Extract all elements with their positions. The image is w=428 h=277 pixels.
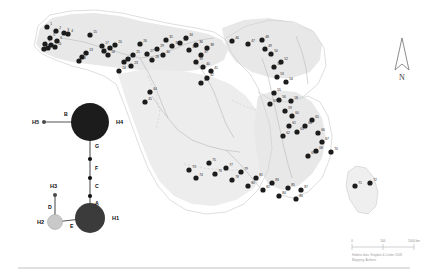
locality-number: 50 <box>274 49 278 53</box>
locality-marker <box>107 45 112 50</box>
locality-number: 60 <box>295 111 299 115</box>
locality-marker <box>309 117 314 122</box>
locality-marker <box>101 48 106 53</box>
locality-number: 39 <box>199 57 203 61</box>
locality-number: 38 <box>210 43 214 47</box>
locality-marker <box>121 59 126 64</box>
locality-number: 57 <box>273 99 277 103</box>
locality-marker <box>44 24 49 29</box>
locality-marker <box>302 123 307 128</box>
locality-marker <box>200 64 205 69</box>
locality-marker <box>269 180 274 185</box>
locality-number: 36 <box>199 40 203 44</box>
locality-marker <box>99 43 104 48</box>
locality-number: 41 <box>214 66 218 70</box>
locality-number: 83 <box>275 178 279 182</box>
locality-marker <box>245 183 250 188</box>
locality-number: 67 <box>325 137 329 141</box>
locality-marker <box>154 46 159 51</box>
locality-number: 8 <box>54 40 56 44</box>
network-edge-label: A <box>95 200 99 206</box>
haplotype-node-label-H2: H2 <box>37 219 44 225</box>
credit-line-1: Habitat data: Kingdon & Linder 2008 <box>352 253 402 257</box>
locality-number: 44 <box>153 87 157 91</box>
locality-number: 31 <box>169 35 173 39</box>
locality-number: 58 <box>294 96 298 100</box>
haplotype-node-H1 <box>75 203 105 233</box>
locality-marker <box>262 46 267 51</box>
locality-number: 72 <box>373 178 377 182</box>
locality-marker <box>289 113 294 118</box>
locality-marker <box>274 74 279 79</box>
locality-marker <box>128 63 133 68</box>
locality-number: 86 <box>299 194 303 198</box>
scale-label-500: 500 <box>380 239 385 243</box>
locality-marker <box>193 59 198 64</box>
median-vector-node <box>88 176 92 180</box>
locality-number: 66 <box>321 128 325 132</box>
locality-marker <box>278 59 283 64</box>
locality-marker <box>229 38 234 43</box>
locality-number: 26 <box>143 39 147 43</box>
locality-number: 29 <box>160 44 164 48</box>
locality-number: 87 <box>304 185 308 189</box>
locality-marker <box>288 98 293 103</box>
locality-marker <box>144 51 149 56</box>
north-arrow-label: N <box>399 73 405 82</box>
locality-number: 6 <box>60 36 62 40</box>
haplotype-node-H5 <box>42 120 46 124</box>
locality-number: 62 <box>286 131 290 135</box>
locality-number: 5 <box>53 33 55 37</box>
locality-number: 77 <box>229 163 233 167</box>
locality-marker <box>149 57 154 62</box>
locality-number: 7 <box>48 39 50 43</box>
locality-marker <box>328 149 333 154</box>
locality-number: 40 <box>206 62 210 66</box>
network-edge-label: B <box>64 111 68 117</box>
locality-number: 10 <box>47 44 51 48</box>
locality-number: 85 <box>291 183 295 187</box>
locality-marker <box>177 40 182 45</box>
locality-number: 18 <box>111 50 115 54</box>
locality-number: 81 <box>259 173 263 177</box>
locality-marker <box>52 44 57 49</box>
locality-marker <box>116 68 121 73</box>
locality-marker <box>253 175 258 180</box>
locality-marker <box>267 101 272 106</box>
locality-number: 4 <box>71 29 73 33</box>
locality-marker <box>305 153 310 158</box>
locality-number: 46 <box>235 36 239 40</box>
locality-number: 34 <box>189 33 193 37</box>
locality-marker <box>130 52 135 57</box>
haplotype-node-H3 <box>53 193 57 197</box>
locality-marker <box>268 51 273 56</box>
locality-number: 68 <box>319 146 323 150</box>
locality-number: 52 <box>284 57 288 61</box>
credit-line-2: Mapping: Authors <box>352 258 377 262</box>
locality-number: 75 <box>212 158 216 162</box>
haplotype-node-label-H1: H1 <box>112 215 119 221</box>
locality-number: 82 <box>266 185 270 189</box>
locality-number: 45 <box>148 97 152 101</box>
locality-number: 1 <box>50 22 52 26</box>
locality-number: 3 <box>67 28 69 32</box>
locality-number: 53 <box>280 72 284 76</box>
locality-marker <box>282 108 287 113</box>
locality-marker <box>206 160 211 165</box>
locality-marker <box>186 167 191 172</box>
locality-marker <box>163 37 168 42</box>
locality-marker <box>183 35 188 40</box>
network-edge-label: C <box>95 183 99 189</box>
locality-number: 30 <box>166 50 170 54</box>
locality-marker <box>65 31 70 36</box>
locality-number: 80 <box>251 181 255 185</box>
locality-marker <box>286 123 291 128</box>
locality-number: 23 <box>134 61 138 65</box>
locality-marker <box>142 99 147 104</box>
locality-marker <box>105 52 110 57</box>
locality-number: 22 <box>127 57 131 61</box>
locality-number: 73 <box>192 165 196 169</box>
locality-marker <box>298 187 303 192</box>
locality-marker <box>271 90 276 95</box>
locality-marker <box>259 37 264 42</box>
